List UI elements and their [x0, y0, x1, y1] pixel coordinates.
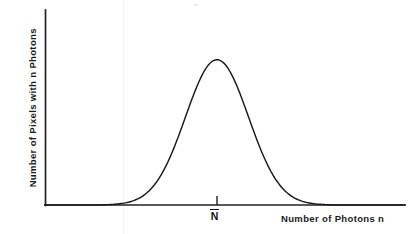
y-axis-label: Number of Pixels with n Photons	[28, 13, 38, 203]
figure-container: Number of Pixels with n Photons Number o…	[0, 0, 417, 234]
x-axis-label: Number of Photons n	[281, 214, 384, 224]
mean-tick-label: N	[210, 209, 219, 222]
plot-canvas	[0, 0, 417, 234]
axis-lines	[45, 10, 405, 206]
gaussian-distribution-curve	[45, 60, 405, 205]
mean-glyph: N	[210, 211, 219, 222]
